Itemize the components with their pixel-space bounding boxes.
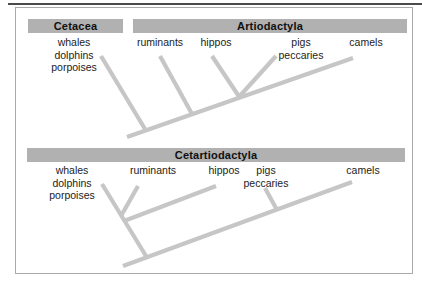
branch-top-hippos xyxy=(212,56,240,98)
taxon-top-camels: camels xyxy=(349,36,382,49)
branch-bottom-hippos xyxy=(124,186,216,221)
taxon-line: ruminants xyxy=(137,36,183,49)
taxon-bottom-whales: whales dolphins porpoises xyxy=(49,164,95,202)
header-artiodactyla-label: Artiodactyla xyxy=(237,20,303,32)
header-cetartiodactyla-label: Cetartiodactyla xyxy=(175,149,257,161)
taxon-line: porpoises xyxy=(51,61,97,74)
branch-bottom-pigs xyxy=(265,188,277,210)
branch-top-ruminants xyxy=(160,56,192,114)
header-cetacea: Cetacea xyxy=(28,19,123,33)
taxon-line: dolphins xyxy=(51,49,97,62)
taxon-top-ruminants: ruminants xyxy=(137,36,183,49)
taxon-bottom-camels: camels xyxy=(346,164,379,177)
taxon-line: porpoises xyxy=(49,189,95,202)
header-cetartiodactyla: Cetartiodactyla xyxy=(27,148,405,162)
taxon-line: pigs xyxy=(244,164,289,177)
taxon-line: pigs xyxy=(279,36,324,49)
taxon-bottom-pigs-peccaries: pigs peccaries xyxy=(244,164,289,189)
taxon-line: hippos xyxy=(209,164,240,177)
taxon-line: peccaries xyxy=(279,49,324,62)
taxon-line: whales xyxy=(49,164,95,177)
taxon-top-whales: whales dolphins porpoises xyxy=(51,36,97,74)
branch-top-whales xyxy=(101,56,145,129)
figure-page: Cetacea Artiodactyla Cetartiodactyla wha… xyxy=(0,0,422,286)
taxon-top-hippos: hippos xyxy=(201,36,232,49)
taxon-top-pigs-peccaries: pigs peccaries xyxy=(279,36,324,61)
taxon-line: camels xyxy=(346,164,379,177)
taxon-bottom-ruminants: ruminants xyxy=(130,164,176,177)
taxon-line: hippos xyxy=(201,36,232,49)
header-artiodactyla: Artiodactyla xyxy=(133,19,407,33)
taxon-line: camels xyxy=(349,36,382,49)
taxon-line: peccaries xyxy=(244,177,289,190)
taxon-line: ruminants xyxy=(130,164,176,177)
branch-bottom-ruminants xyxy=(121,186,138,216)
taxon-line: dolphins xyxy=(49,177,95,190)
taxon-bottom-hippos: hippos xyxy=(209,164,240,177)
header-cetacea-label: Cetacea xyxy=(54,20,98,32)
taxon-line: whales xyxy=(51,36,97,49)
branch-bottom-trunk xyxy=(123,182,352,266)
